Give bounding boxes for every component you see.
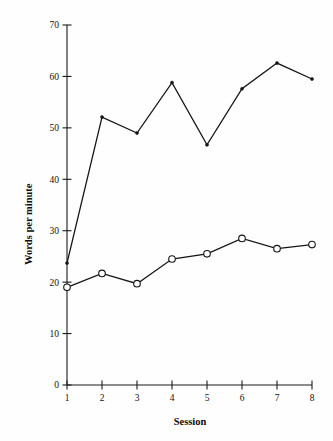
y-tick-label: 0 [54, 380, 59, 390]
y-axis: 010203040506070 [50, 20, 72, 390]
data-point-upper-series [101, 116, 104, 119]
data-point-lower-series [64, 284, 71, 291]
data-point-upper-series [136, 132, 139, 135]
data-point-lower-series [99, 270, 106, 277]
x-tick-label: 7 [275, 393, 280, 403]
y-axis-title: Words per minute [23, 183, 34, 265]
y-tick-label: 70 [50, 20, 60, 30]
x-tick-label: 2 [100, 393, 105, 403]
data-point-lower-series [309, 241, 316, 248]
y-tick-label: 60 [50, 72, 60, 82]
data-point-lower-series [239, 235, 246, 242]
x-tick-label: 8 [310, 393, 315, 403]
x-tick-label: 4 [170, 393, 175, 403]
x-tick-label: 6 [240, 393, 245, 403]
x-axis: 12345678 [65, 381, 315, 404]
data-point-upper-series [276, 62, 279, 65]
y-tick-label: 30 [50, 226, 60, 236]
y-tick-label: 40 [50, 175, 60, 185]
data-point-lower-series [169, 256, 176, 263]
data-series-group [64, 62, 316, 291]
data-point-lower-series [204, 251, 211, 258]
data-point-upper-series [171, 81, 174, 84]
x-tick-label: 1 [65, 393, 70, 403]
series-line-upper-series [67, 63, 312, 263]
y-tick-label: 50 [50, 123, 60, 133]
x-axis-title: Session [174, 416, 207, 427]
data-point-lower-series [274, 245, 281, 252]
line-chart: 010203040506070 12345678 Words per minut… [0, 0, 333, 441]
x-tick-label: 3 [135, 393, 140, 403]
x-tick-label: 5 [205, 393, 210, 403]
chart-container: 010203040506070 12345678 Words per minut… [0, 0, 333, 441]
data-point-upper-series [206, 143, 209, 146]
data-point-lower-series [134, 280, 141, 287]
y-tick-label: 10 [50, 329, 60, 339]
data-point-upper-series [311, 78, 314, 81]
data-point-upper-series [241, 87, 244, 90]
y-tick-label: 20 [50, 278, 60, 288]
data-point-upper-series [66, 262, 69, 265]
